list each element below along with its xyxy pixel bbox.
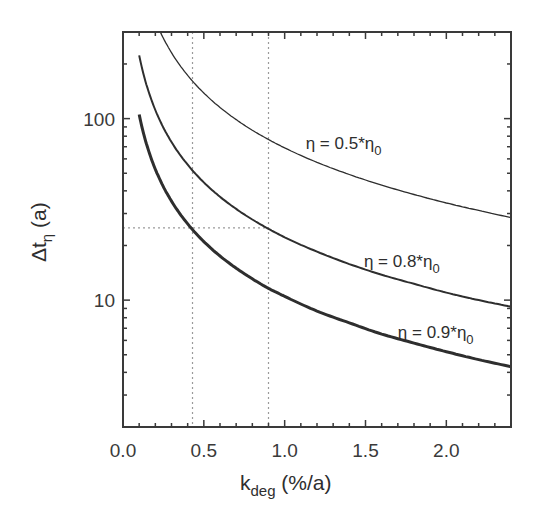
- curve-series-2: [139, 55, 511, 306]
- x-axis-title-sub: deg: [251, 482, 276, 499]
- y-axis-title: Δtη (a): [27, 202, 55, 262]
- plot-frame: [123, 32, 511, 427]
- reference-lines: [123, 32, 269, 427]
- svg-text:kdeg (%/a): kdeg (%/a): [240, 471, 332, 499]
- y-axis-title-sub: η: [38, 234, 55, 242]
- y-tick-label: 10: [94, 290, 115, 311]
- chart-canvas: η = 0.5*η0η = 0.8*η0η = 0.9*η0 0.00.51.0…: [0, 0, 537, 517]
- x-axis-title-main: k: [240, 471, 251, 494]
- data-curves: [139, 0, 511, 367]
- y-axis-title-unit: (a): [27, 202, 50, 234]
- y-tick-label: 100: [83, 109, 115, 130]
- x-tick-label: 0.5: [191, 440, 217, 461]
- x-tick-label: 0.0: [110, 440, 136, 461]
- x-tick-label: 1.0: [271, 440, 297, 461]
- x-tick-label: 2.0: [433, 440, 459, 461]
- x-axis-title: kdeg (%/a): [240, 471, 332, 499]
- x-tick-label: 1.5: [352, 440, 378, 461]
- x-axis-ticks: 0.00.51.01.52.0: [110, 32, 511, 461]
- y-axis-title-main: Δt: [27, 242, 50, 262]
- curve-label-1: η = 0.5*η0: [306, 134, 382, 158]
- svg-text:Δtη (a): Δtη (a): [27, 202, 55, 262]
- x-axis-title-unit: (%/a): [276, 471, 332, 494]
